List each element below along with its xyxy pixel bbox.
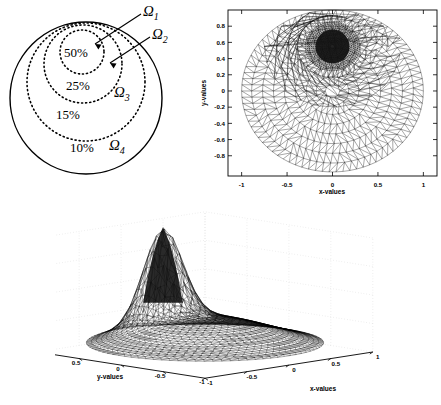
svg-text:0.2: 0.2 [216,71,225,78]
surface-x-axis-label: x-values [310,385,336,392]
mesh-refinement-core [316,30,350,64]
svg-text:0.5: 0.5 [72,359,81,366]
label-percent-omega3: 15% [56,107,80,122]
surface-y-axis-label: y-values [97,373,123,381]
svg-text:-0.8: -0.8 [214,152,225,159]
surface-svg: 00.511.5210.50-0.5-1-1-0.500.51 x-values… [55,200,441,405]
surface-peak [143,227,183,303]
svg-text:-1: -1 [199,378,205,385]
svg-text:0.5: 0.5 [332,360,341,367]
svg-text:0.5: 0.5 [374,181,383,188]
svg-text:0: 0 [331,181,335,188]
label-omega3: Ω3 [114,84,130,103]
mesh-x-axis-label: x-values [319,188,345,195]
label-percent-omega1: 50% [64,45,88,60]
svg-text:1: 1 [376,353,380,360]
svg-text:-0.6: -0.6 [214,136,225,143]
svg-text:-0.5: -0.5 [282,181,293,188]
svg-text:-0.2: -0.2 [214,103,225,110]
svg-text:0.4: 0.4 [216,55,225,62]
label-percent-omega2: 25% [66,78,90,93]
surface-panel: 00.511.5210.50-0.5-1-1-0.500.51 x-values… [55,200,441,405]
svg-text:-0.5: -0.5 [247,373,258,380]
label-omega4: Ω4 [109,137,125,156]
mesh-y-axis-label: y-values [200,80,208,106]
svg-text:-1: -1 [207,379,213,386]
label-percent-omega4: 10% [70,140,94,155]
arrowhead-omega2 [110,63,117,69]
mesh-panel: -1-0.500.510.80.60.40.20-0.2-0.4-0.6-0.8… [196,2,441,202]
svg-text:0: 0 [292,366,296,373]
schematic-panel: Ω1 Ω2 Ω3 Ω4 50% 25% 15% 10% [0,0,215,200]
label-omega2: Ω2 [152,26,168,45]
svg-text:0: 0 [222,87,226,94]
svg-text:1: 1 [422,181,426,188]
label-omega1: Ω1 [143,3,159,22]
svg-text:0.8: 0.8 [216,22,225,29]
svg-text:-0.4: -0.4 [214,120,225,127]
mesh-svg: -1-0.500.510.80.60.40.20-0.2-0.4-0.6-0.8… [196,2,441,202]
leader-line-omega2 [110,37,150,63]
svg-text:-0.5: -0.5 [155,372,166,379]
svg-text:0: 0 [116,365,120,372]
mesh-triangulation [242,10,424,172]
svg-text:-1: -1 [239,181,245,188]
surface-tick-labels: 00.511.5210.50-0.5-1-1-0.500.51 [55,234,380,386]
svg-text:0.6: 0.6 [216,39,225,46]
arrowhead-omega1 [95,44,102,50]
schematic-svg: Ω1 Ω2 Ω3 Ω4 50% 25% 15% 10% [0,0,215,200]
